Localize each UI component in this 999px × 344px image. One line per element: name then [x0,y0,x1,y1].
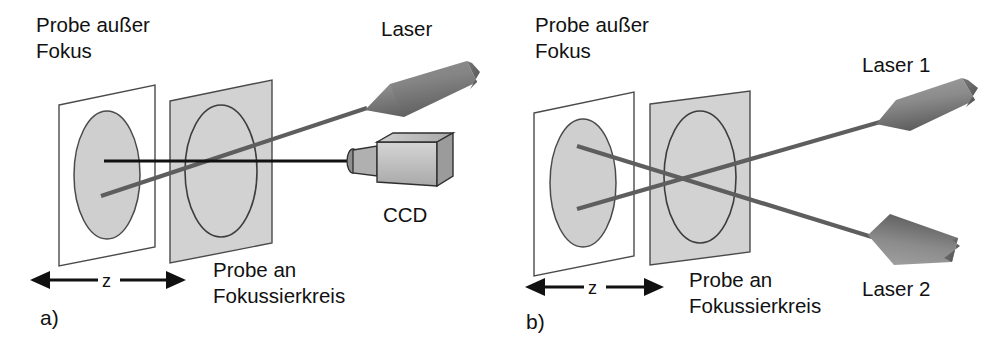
panel-b-sample-out-of-focus-label-line2: Fokus [535,39,591,62]
panel-b-laser-2-label: Laser 2 [862,277,930,300]
panel-a-z-label: z [102,271,111,291]
panel-b-sample-at-focus-label-line1: Probe an [689,268,772,291]
panel-b-letter: b) [526,310,545,333]
panel-b-sample-out-of-focus-label-line1: Probe außer [535,13,649,36]
panel-b-sample-at-focus-label-line2: Fokussierkreis [689,294,821,317]
panel-a-laser-label: Laser [381,17,432,40]
panel-a-ccd-label: CCD [383,203,427,226]
ccd-barrel-icon [353,146,377,176]
panel-a-sample-at-focus-label-line2: Fokussierkreis [213,284,345,307]
panel-b-plane-at-focus [650,91,750,265]
ccd-body-side-icon [437,133,453,186]
ccd-body-front-icon [377,142,437,186]
panel-a-sample-out-of-focus-label-line2: Fokus [36,39,92,62]
panel-b-laser-1-label: Laser 1 [862,53,930,76]
panel-a-letter: a) [40,306,59,329]
figure-root: Probe außer Fokus Laser [0,0,999,344]
panel-b-spot-out-of-focus [550,119,616,247]
panel-a-sample-at-focus-label-line1: Probe an [213,258,296,281]
panel-a-spot-out-of-focus [74,111,140,239]
panel-a-sample-out-of-focus-label-line1: Probe außer [36,13,150,36]
panel-b-z-label: z [588,278,597,298]
